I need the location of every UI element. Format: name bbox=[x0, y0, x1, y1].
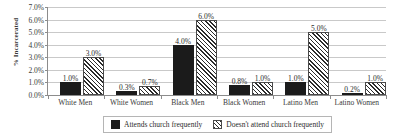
bar: 5.0% bbox=[308, 32, 329, 95]
x-axis-category-label: Latino Men bbox=[283, 98, 318, 107]
y-axis-tick-label: 2.0% bbox=[8, 65, 44, 74]
y-axis-tick-label: 0.0% bbox=[8, 91, 44, 100]
x-axis-tick-mark bbox=[386, 95, 387, 99]
bar-value-label: 1.0% bbox=[255, 74, 271, 83]
bar-group: 0.3%0.7% bbox=[104, 7, 160, 95]
bar-group: 0.2%1.0% bbox=[330, 7, 386, 95]
bar-value-label: 1.0% bbox=[367, 74, 383, 83]
bar-value-label: 1.0% bbox=[63, 74, 79, 83]
bar: 1.0% bbox=[252, 82, 273, 95]
bar: 4.0% bbox=[173, 45, 194, 95]
bar-value-label: 0.3% bbox=[119, 83, 135, 92]
x-axis-category-label: White Men bbox=[58, 98, 92, 107]
bar-value-label: 6.0% bbox=[198, 12, 214, 21]
bar: 1.0% bbox=[365, 82, 386, 95]
bar: 6.0% bbox=[196, 20, 217, 95]
y-axis-tick-label: 4.0% bbox=[8, 40, 44, 49]
legend-label: Doesn't attend church frequently bbox=[226, 120, 324, 129]
bar-value-label: 4.0% bbox=[175, 37, 191, 46]
bar-groups: 1.0%3.0%0.3%0.7%4.0%6.0%0.8%1.0%1.0%5.0%… bbox=[48, 7, 386, 95]
bar-group: 0.8%1.0% bbox=[217, 7, 273, 95]
bar-value-label: 0.7% bbox=[142, 78, 158, 87]
legend-item: Attends church frequently bbox=[111, 120, 202, 129]
bar-value-label: 0.8% bbox=[232, 77, 248, 86]
legend-swatch-solid-icon bbox=[111, 120, 120, 129]
legend-swatch-hatched-icon bbox=[213, 120, 222, 129]
legend-item: Doesn't attend church frequently bbox=[213, 120, 324, 129]
legend-label: Attends church frequently bbox=[124, 120, 202, 129]
y-axis-tick-label: 7.0% bbox=[8, 3, 44, 12]
x-axis-category-label: White Women bbox=[110, 98, 153, 107]
y-axis-tick-label: 5.0% bbox=[8, 28, 44, 37]
bar-group: 1.0%3.0% bbox=[48, 7, 104, 95]
y-axis-tick-label: 6.0% bbox=[8, 15, 44, 24]
bar: 1.0% bbox=[60, 82, 81, 95]
x-axis-category-label: Latino Women bbox=[335, 98, 379, 107]
y-axis-tick-label: 1.0% bbox=[8, 78, 44, 87]
x-axis-category-label: Black Women bbox=[223, 98, 265, 107]
bar-value-label: 0.2% bbox=[344, 85, 360, 94]
bar: 3.0% bbox=[83, 57, 104, 95]
bar: 0.2% bbox=[342, 93, 363, 96]
bar-value-label: 5.0% bbox=[311, 24, 327, 33]
bar-chart: % Incarcerated 0.0%1.0%2.0%3.0%4.0%5.0%6… bbox=[0, 0, 398, 138]
bar-value-label: 3.0% bbox=[86, 49, 102, 58]
bar: 0.7% bbox=[139, 86, 160, 95]
bar-value-label: 1.0% bbox=[288, 74, 304, 83]
chart-legend: Attends church frequentlyDoesn't attend … bbox=[103, 116, 332, 133]
bar-group: 4.0%6.0% bbox=[161, 7, 217, 95]
bar: 1.0% bbox=[285, 82, 306, 95]
plot-area: 1.0%3.0%0.3%0.7%4.0%6.0%0.8%1.0%1.0%5.0%… bbox=[47, 7, 386, 96]
bar: 0.3% bbox=[116, 91, 137, 95]
x-axis-category-label: Black Men bbox=[171, 98, 204, 107]
bar-group: 1.0%5.0% bbox=[273, 7, 329, 95]
bar: 0.8% bbox=[229, 85, 250, 95]
x-axis-category-labels: White MenWhite WomenBlack MenBlack Women… bbox=[47, 98, 385, 110]
y-axis-tick-label: 3.0% bbox=[8, 53, 44, 62]
y-axis-tick-labels: 0.0%1.0%2.0%3.0%4.0%5.0%6.0%7.0% bbox=[8, 0, 44, 96]
